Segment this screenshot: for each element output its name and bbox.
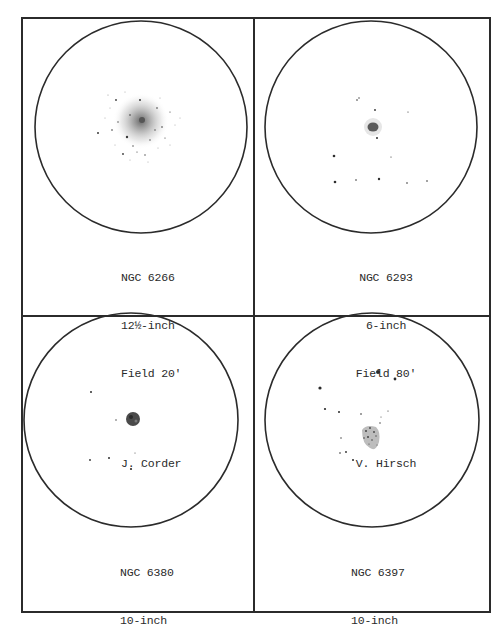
- field-circle: [265, 313, 479, 527]
- object-name: NGC 6397: [351, 565, 411, 581]
- eyepiece-field-ngc6397: [0, 0, 502, 627]
- caption-ngc6397: NGC 6397 10-inch Field 25' J. Corder: [351, 533, 411, 627]
- globular-cluster-icon: [318, 370, 396, 461]
- telescope-aperture: 10-inch: [351, 613, 411, 627]
